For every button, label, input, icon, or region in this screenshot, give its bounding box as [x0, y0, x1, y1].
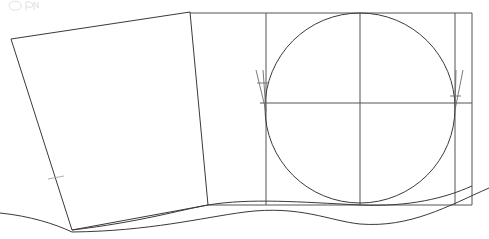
canvas-background — [0, 0, 489, 239]
drawing-canvas — [0, 0, 489, 239]
technical-drawing-svg — [0, 0, 489, 239]
